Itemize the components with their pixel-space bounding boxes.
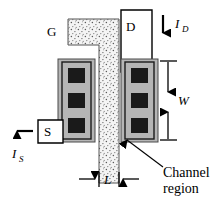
- drain-contact-2: [131, 93, 148, 108]
- source-current-arrow: I S: [11, 131, 33, 164]
- source-current-label: I: [11, 146, 17, 161]
- mosfet-layout-figure: D S G I D: [0, 0, 223, 206]
- channel-callout-line2: region: [163, 181, 199, 196]
- source-contact-1: [68, 68, 85, 83]
- drain-diffusion-group: [121, 59, 158, 142]
- mosfet-layout-svg: D S G I D: [0, 0, 223, 206]
- channel-callout-line1: Channel: [163, 165, 210, 180]
- channel-region-callout: Channel region: [127, 140, 210, 196]
- source-contact-2: [68, 93, 85, 108]
- source-current-sublabel: S: [19, 154, 24, 164]
- channel-callout-leader: [127, 140, 163, 167]
- drain-current-sublabel: D: [181, 24, 189, 34]
- gate-label: G: [47, 24, 56, 39]
- source-label: S: [44, 124, 51, 139]
- drain-current-arrow: I D: [163, 15, 189, 34]
- width-label: W: [178, 93, 190, 108]
- drain-contact-1: [131, 68, 148, 83]
- width-dimension: W: [160, 61, 190, 140]
- drain-current-label: I: [174, 16, 180, 31]
- drain-contact-3: [131, 118, 148, 133]
- drain-label: D: [126, 19, 135, 34]
- source-contact-3: [68, 118, 85, 133]
- length-dimension: L: [79, 172, 139, 187]
- length-label: L: [103, 172, 111, 187]
- source-terminal: S: [38, 120, 63, 143]
